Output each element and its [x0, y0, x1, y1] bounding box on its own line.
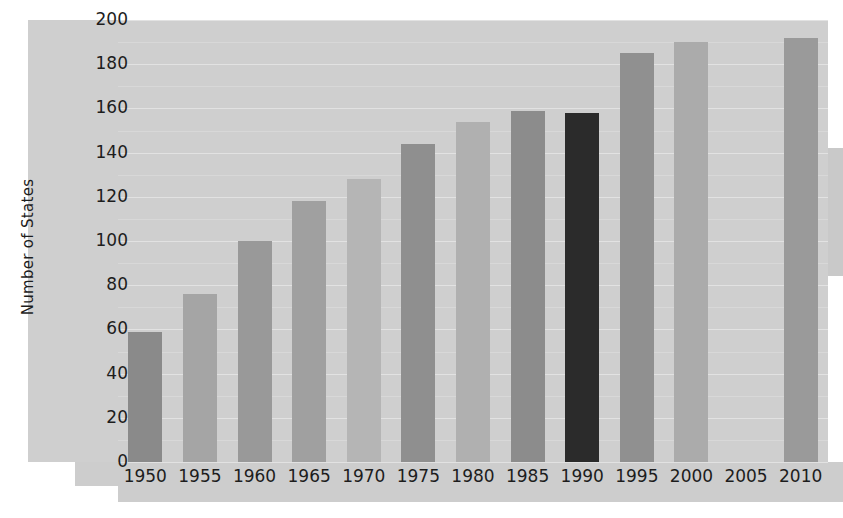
plot-area: [118, 20, 828, 462]
gridline-major: [118, 64, 828, 65]
x-tick-1950: 1950: [118, 468, 172, 485]
x-tick-1965: 1965: [282, 468, 336, 485]
y-tick-20: 20: [106, 409, 128, 426]
x-tick-1970: 1970: [337, 468, 391, 485]
bar-1965: [292, 201, 326, 462]
gridline-minor: [118, 42, 828, 43]
right-edge-tab: [828, 148, 843, 276]
gridline-minor: [118, 86, 828, 87]
gridline-major: [118, 108, 828, 109]
x-axis-tick-labels: 1950195519601965197019751980198519901995…: [118, 468, 828, 498]
bar-1995: [620, 53, 654, 462]
bar-2000: [674, 42, 708, 462]
y-tick-60: 60: [106, 320, 128, 337]
y-tick-80: 80: [106, 276, 128, 293]
x-tick-1985: 1985: [501, 468, 555, 485]
y-tick-100: 100: [96, 232, 128, 249]
bar-1955: [183, 294, 217, 462]
y-tick-180: 180: [96, 55, 128, 72]
bar-1985: [511, 111, 545, 462]
x-tick-1975: 1975: [391, 468, 445, 485]
bar-1960: [238, 241, 272, 462]
bar-1950: [128, 332, 162, 462]
x-tick-2000: 2000: [664, 468, 718, 485]
bar-chart-figure: 020406080100120140160180200 Number of St…: [0, 0, 843, 518]
x-tick-2010: 2010: [774, 468, 828, 485]
y-tick-140: 140: [96, 144, 128, 161]
x-tick-1995: 1995: [610, 468, 664, 485]
bar-1990: [565, 113, 599, 462]
bar-1975: [401, 144, 435, 462]
y-axis-tick-labels: 020406080100120140160180200: [84, 0, 128, 518]
y-tick-120: 120: [96, 188, 128, 205]
y-tick-40: 40: [106, 365, 128, 382]
x-tick-1960: 1960: [228, 468, 282, 485]
y-tick-200: 200: [96, 11, 128, 28]
x-tick-2005: 2005: [719, 468, 773, 485]
x-tick-1980: 1980: [446, 468, 500, 485]
y-tick-160: 160: [96, 99, 128, 116]
bar-1970: [347, 179, 381, 462]
gridline-major: [118, 20, 828, 21]
y-axis-title: Number of States: [19, 157, 37, 337]
x-tick-1955: 1955: [173, 468, 227, 485]
bar-1980: [456, 122, 490, 462]
x-tick-1990: 1990: [555, 468, 609, 485]
bar-2010: [784, 38, 818, 462]
gridline-major: [118, 462, 828, 463]
